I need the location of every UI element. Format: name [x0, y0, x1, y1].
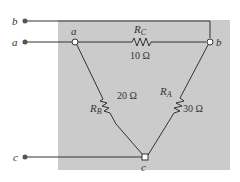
delta-circuit-diagram: b a c a b c RC 10 Ω 20 Ω RB RA 30 Ω [0, 0, 240, 182]
node-b-label: b [216, 36, 222, 48]
node-c-label: c [141, 161, 146, 173]
node-a-label: a [71, 25, 77, 37]
node-b [207, 39, 213, 45]
terminal-c-label: c [13, 151, 18, 163]
ra-value: 30 Ω [183, 103, 203, 114]
terminal-a [23, 40, 28, 45]
terminal-b-label: b [12, 15, 18, 27]
node-a [72, 39, 78, 45]
terminal-c [23, 155, 28, 160]
terminal-b [23, 19, 28, 24]
node-c [142, 154, 148, 160]
rb-value: 20 Ω [117, 90, 137, 101]
terminal-a-label: a [12, 36, 18, 48]
rc-value: 10 Ω [130, 50, 150, 61]
